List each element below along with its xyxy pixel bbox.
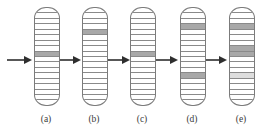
column-panel-d xyxy=(180,7,206,106)
banded-column-b xyxy=(82,7,108,106)
banded-column-a xyxy=(34,7,60,106)
band xyxy=(35,100,59,104)
figure-container: (a) (b) (c) (d) (e) xyxy=(0,0,271,134)
banded-column-d xyxy=(180,7,206,106)
banded-column-c xyxy=(130,7,156,106)
panel-label-c: (c) xyxy=(122,114,162,124)
column-panel-a xyxy=(34,7,60,106)
arrow-right-icon-1 xyxy=(6,54,32,66)
panel-label-d: (d) xyxy=(172,114,212,124)
column-panel-e xyxy=(229,7,255,106)
band-stack-c xyxy=(131,8,155,105)
band xyxy=(181,100,205,104)
band-stack-d xyxy=(181,8,205,105)
panel-label-e: (e) xyxy=(221,114,261,124)
column-panel-b xyxy=(82,7,108,106)
band-stack-b xyxy=(83,8,107,105)
panel-label-b: (b) xyxy=(74,114,114,124)
panel-label-a: (a) xyxy=(26,114,66,124)
column-panel-c xyxy=(130,7,156,106)
panels-row xyxy=(0,0,271,112)
band xyxy=(83,100,107,104)
band xyxy=(131,100,155,104)
band xyxy=(230,100,254,104)
banded-column-e xyxy=(229,7,255,106)
band-stack-e xyxy=(230,8,254,105)
panel-labels-row: (a) (b) (c) (d) (e) xyxy=(0,112,271,134)
band-stack-a xyxy=(35,8,59,105)
